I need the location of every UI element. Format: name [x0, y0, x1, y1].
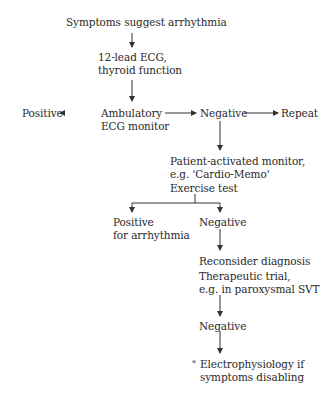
- step3-line2: e.g. 'Cardio-Memo': [170, 168, 269, 181]
- asterisk-marker: *: [192, 357, 196, 370]
- step3-line1: Patient-activated monitor,: [170, 155, 305, 168]
- step4-line1: Reconsider diagnosis: [199, 255, 310, 268]
- step3-negative-label: Negative: [199, 216, 246, 229]
- step2-positive-label: Positive: [22, 107, 63, 120]
- step2-negative-label: Negative: [200, 107, 247, 120]
- final-line1: Electrophysiology if: [200, 358, 304, 371]
- step4-negative-label: Negative: [199, 320, 246, 333]
- step2-line2: ECG monitor: [101, 120, 169, 133]
- step3-positive-line1: Positive: [113, 216, 154, 229]
- step3-positive-line2: for arrhythmia: [113, 229, 190, 242]
- step4-line2: Therapeutic trial,: [199, 270, 291, 283]
- step4-line3: e.g. in paroxysmal SVT: [199, 283, 319, 296]
- step3-line3: Exercise test: [170, 182, 238, 195]
- final-line2: symptoms disabling: [200, 371, 304, 384]
- start-node: Symptoms suggest arrhythmia: [66, 16, 227, 29]
- repeat-label: Repeat: [281, 107, 318, 120]
- step1-line1: 12-lead ECG,: [98, 51, 167, 64]
- step2-line1: Ambulatory: [101, 107, 162, 120]
- step1-line2: thyroid function: [98, 64, 182, 77]
